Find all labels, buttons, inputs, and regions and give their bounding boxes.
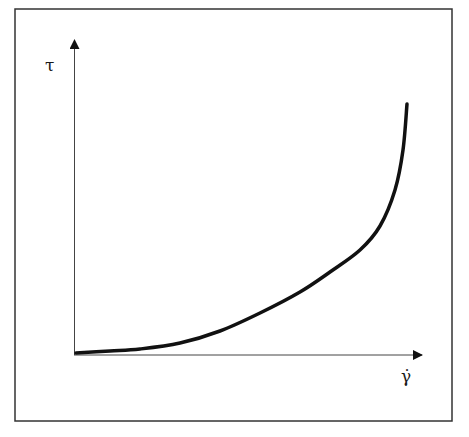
chart-figure — [0, 0, 469, 437]
y-axis-label: τ — [45, 57, 54, 74]
shear-thickening-curve — [76, 104, 407, 353]
x-axis-label: γ̇ — [401, 368, 411, 385]
